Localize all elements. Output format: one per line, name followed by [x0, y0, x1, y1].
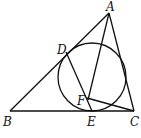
segment-ab: [10, 13, 109, 111]
geometry-diagram: A B C D E F: [0, 0, 141, 138]
label-f: F: [76, 94, 86, 108]
label-a: A: [105, 0, 115, 14]
label-d: D: [56, 43, 67, 57]
label-e: E: [86, 115, 96, 129]
segment-ae: [88, 13, 109, 100]
segment-ca: [109, 13, 134, 111]
segment-fc: [87, 98, 134, 111]
label-b: B: [2, 115, 12, 129]
label-c: C: [130, 115, 139, 129]
incircle: [58, 43, 126, 111]
